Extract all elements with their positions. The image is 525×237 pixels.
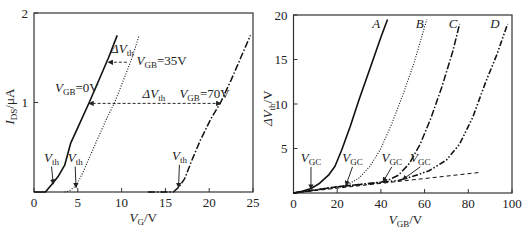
annotation-label: VGB=70V	[179, 86, 230, 103]
annotation-arrow	[52, 167, 54, 184]
annotation-arrow	[383, 167, 392, 182]
annotation-label: Vth	[172, 148, 187, 165]
y-tick-label: 2	[22, 6, 29, 21]
annotation-label: VGC	[382, 150, 402, 167]
series-line-vgb-35v	[65, 35, 139, 192]
x-tick-label: 40	[374, 196, 387, 211]
series-line-a	[294, 20, 388, 194]
series-line-d	[294, 24, 508, 193]
annotation-label: ΔVth	[110, 41, 134, 58]
chart-figure: 051015202512VG/VIDS/μAVthVthVthVGB=0VVGB…	[0, 0, 525, 237]
y-tick-label: 5	[281, 141, 288, 156]
annotation-arrow	[179, 165, 180, 188]
annotation-label: Vth	[68, 150, 83, 167]
annotation-arrow	[346, 167, 353, 185]
curve-label-b: B	[416, 16, 424, 31]
x-tick-label: 20	[203, 195, 216, 210]
plot-left-transfer-curves: 051015202512VG/VIDS/μAVthVthVthVGB=0VVGB…	[2, 6, 260, 228]
x-axis-label: VGB/V	[389, 212, 423, 229]
annotation-arrow	[75, 167, 76, 188]
annotation-label: VGC	[342, 150, 362, 167]
annotation-label: VGC	[301, 150, 321, 167]
y-tick-label: 1	[22, 95, 29, 110]
annotation-label: VGB=0V	[55, 80, 99, 97]
x-tick-label: 25	[247, 195, 260, 210]
y-tick-label: 20	[275, 8, 288, 23]
x-tick-label: 60	[418, 196, 431, 211]
y-axis-label: ΔVth/V	[260, 90, 277, 127]
x-tick-label: 10	[115, 195, 128, 210]
y-axis-label: IDS/μA	[2, 88, 19, 125]
plot-right-threshold-shift: 0204060801005101520VGB/VΔVth/VABCDVGCVGC…	[260, 8, 522, 230]
curve-label-c: C	[449, 16, 458, 31]
x-tick-label: 80	[462, 196, 475, 211]
annotation-label: ΔVth	[142, 86, 166, 103]
x-axis-label: VG/V	[130, 210, 158, 227]
plot-frame	[294, 15, 513, 193]
annotation-label: VGC	[410, 150, 430, 167]
y-tick-label: 15	[275, 52, 288, 67]
x-tick-label: 20	[331, 196, 344, 211]
x-tick-label: 100	[502, 196, 522, 211]
x-tick-label: 0	[290, 196, 297, 211]
annotation-label: VGB=35V	[136, 53, 187, 70]
x-tick-label: 15	[159, 195, 172, 210]
x-tick-label: 0	[31, 195, 38, 210]
curve-label-a: A	[371, 16, 380, 31]
x-tick-label: 5	[75, 195, 82, 210]
curve-label-d: D	[489, 16, 500, 31]
annotation-label: Vth	[44, 150, 59, 167]
